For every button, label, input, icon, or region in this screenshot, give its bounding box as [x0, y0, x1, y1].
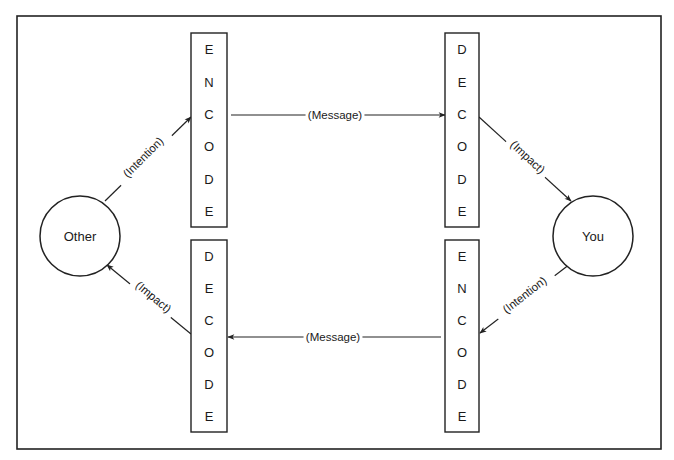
top-left-encode-box: ENCODE [191, 33, 227, 227]
box-letter: E [458, 204, 467, 219]
box-letter: O [204, 345, 214, 360]
box-letter: C [457, 107, 466, 122]
box-letter: E [205, 281, 214, 296]
box-letter: O [204, 139, 214, 154]
node-you: You [553, 196, 633, 276]
box-letter: D [457, 377, 466, 392]
box-letter: E [205, 204, 214, 219]
box-letter: C [204, 313, 213, 328]
edges-layer: (Intention)(Message)(Impact)(Intention)(… [105, 109, 571, 344]
box-letter: O [457, 345, 467, 360]
edge-label: (Impact) [134, 279, 174, 315]
edge-top-right-decode-to-you: (Impact) [479, 117, 571, 201]
box-letter: E [205, 409, 214, 424]
edge-label: (Impact) [508, 138, 547, 176]
edge-you-to-bottom-right-encode: (Intention) [480, 264, 570, 333]
edge-label: (Message) [306, 331, 360, 343]
box-letter: C [457, 313, 466, 328]
boxes-layer: ENCODEDECODEDECODEENCODE [191, 33, 479, 432]
nodes-layer: OtherYou [40, 196, 633, 276]
node-label: You [582, 229, 604, 244]
node-label: Other [64, 229, 97, 244]
box-letter: D [457, 42, 466, 57]
edge-label: (Intention) [500, 274, 548, 315]
box-letter: E [458, 249, 467, 264]
edge-top-left-encode-to-top-right-decode: (Message) [231, 109, 445, 122]
box-letter: E [205, 42, 214, 57]
edge-other-to-top-left-encode: (Intention) [105, 117, 191, 201]
top-right-decode-box: DECODE [445, 33, 479, 227]
box-letter: D [204, 249, 213, 264]
edge-label: (Intention) [121, 135, 166, 180]
box-letter: C [204, 107, 213, 122]
box-letter: E [458, 409, 467, 424]
box-letter: N [457, 281, 466, 296]
communication-loop-diagram: (Intention)(Message)(Impact)(Intention)(… [0, 0, 674, 460]
box-letter: D [204, 377, 213, 392]
bottom-right-encode-box: ENCODE [445, 240, 479, 432]
bottom-left-decode-box: DECODE [191, 240, 227, 432]
box-letter: E [458, 75, 467, 90]
box-letter: O [457, 139, 467, 154]
box-letter: D [204, 172, 213, 187]
edge-bottom-left-decode-to-other: (Impact) [107, 265, 191, 334]
box-letter: N [204, 75, 213, 90]
edge-label: (Message) [308, 109, 362, 121]
node-other: Other [40, 196, 120, 276]
edge-bottom-right-encode-to-bottom-left-decode: (Message) [228, 331, 441, 344]
box-letter: D [457, 172, 466, 187]
